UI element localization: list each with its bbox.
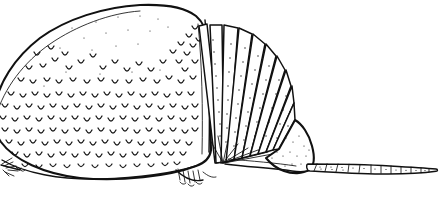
- armadillo-illustration: [0, 0, 443, 200]
- figure-container: Armadillo carapace lateral view: [0, 0, 443, 200]
